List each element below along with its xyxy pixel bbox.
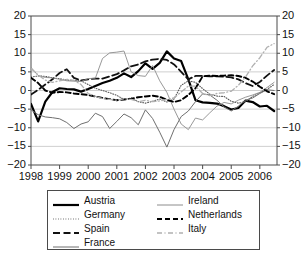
- x-tick-label: 2001: [101, 171, 133, 182]
- y-tick-label-left: 20: [0, 10, 26, 21]
- y-tick-label-right: −5: [282, 103, 308, 114]
- legend-label: Austria: [84, 196, 115, 206]
- y-tick-label-left: −20: [0, 159, 26, 170]
- x-tick-label: 2005: [215, 171, 247, 182]
- chart-legend: AustriaIrelandGermanyNetherlandsSpainIta…: [47, 190, 260, 250]
- legend-label: Ireland: [188, 196, 219, 206]
- y-tick-label-left: −15: [0, 140, 26, 151]
- series-line-france: [31, 90, 274, 147]
- legend-swatch-icon: [52, 224, 80, 234]
- legend-label: Netherlands: [188, 210, 242, 220]
- y-tick-label-right: −15: [282, 140, 308, 151]
- legend-item-austria[interactable]: Austria: [52, 194, 156, 208]
- x-tick-label: 2006: [244, 171, 276, 182]
- y-tick-label-left: −10: [0, 122, 26, 133]
- y-tick-label-right: 20: [282, 10, 308, 21]
- y-tick-label-right: 5: [282, 66, 308, 77]
- legend-label: Spain: [84, 224, 110, 234]
- y-tick-label-right: −20: [282, 159, 308, 170]
- x-tick-label: 2004: [187, 171, 219, 182]
- legend-item-ireland[interactable]: Ireland: [156, 194, 265, 208]
- x-tick-label: 2000: [72, 171, 104, 182]
- legend-label: France: [84, 238, 115, 248]
- y-tick-label-right: −10: [282, 122, 308, 133]
- legend-item-germany[interactable]: Germany: [52, 208, 156, 222]
- y-tick-label-right: 0: [282, 85, 308, 96]
- y-tick-label-left: 15: [0, 29, 26, 40]
- series-line-austria: [31, 51, 274, 121]
- x-tick-label: 2002: [129, 171, 161, 182]
- legend-swatch-icon: [156, 224, 184, 234]
- legend-label: Italy: [188, 224, 206, 234]
- legend-swatch-icon: [52, 196, 80, 206]
- legend-label: Germany: [84, 210, 125, 220]
- legend-swatch-icon: [156, 196, 184, 206]
- y-tick-label-left: −5: [0, 103, 26, 114]
- legend-swatch-icon: [52, 238, 80, 248]
- y-tick-label-right: 15: [282, 29, 308, 40]
- y-tick-label-right: 10: [282, 47, 308, 58]
- line-chart: 20151050−5−10−15−20 20151050−5−10−15−20 …: [0, 0, 308, 184]
- legend-swatch-icon: [156, 210, 184, 220]
- x-tick-label: 2003: [158, 171, 190, 182]
- legend-item-netherlands[interactable]: Netherlands: [156, 208, 265, 222]
- chart-page: 20151050−5−10−15−20 20151050−5−10−15−20 …: [0, 0, 308, 256]
- x-tick-label: 1999: [44, 171, 76, 182]
- legend-item-italy[interactable]: Italy: [156, 222, 265, 236]
- y-tick-label-left: 0: [0, 85, 26, 96]
- legend-item-france[interactable]: France: [52, 236, 156, 250]
- legend-item-spain[interactable]: Spain: [52, 222, 156, 236]
- legend-swatch-icon: [52, 210, 80, 220]
- plot-area: [0, 0, 308, 184]
- y-tick-label-left: 5: [0, 66, 26, 77]
- x-tick-label: 1998: [15, 171, 47, 182]
- y-tick-label-left: 10: [0, 47, 26, 58]
